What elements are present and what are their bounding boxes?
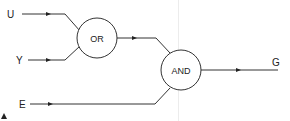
- arrow-icon: [132, 36, 137, 40]
- wire-y-to-or: [28, 46, 80, 62]
- arrow-icon: [236, 68, 241, 72]
- logic-diagram: OR AND U Y E G: [0, 0, 290, 121]
- or-gate-label: OR: [90, 34, 104, 44]
- wire-u-to-or: [22, 12, 80, 31]
- or-gate: OR: [77, 18, 117, 58]
- input-label-y: Y: [16, 55, 23, 66]
- and-gate: AND: [161, 50, 201, 90]
- triangle-marker-icon: [1, 113, 7, 119]
- input-label-u: U: [7, 9, 14, 20]
- arrow-icon: [48, 102, 53, 106]
- output-label-g: G: [272, 57, 280, 68]
- wire-or-to-and: [117, 36, 170, 53]
- and-gate-label: AND: [171, 66, 191, 76]
- arrow-icon: [46, 58, 51, 62]
- wire-and-to-g: [201, 68, 278, 72]
- input-label-e: E: [19, 99, 26, 110]
- wire-e-to-and: [30, 88, 170, 106]
- arrow-icon: [46, 12, 51, 16]
